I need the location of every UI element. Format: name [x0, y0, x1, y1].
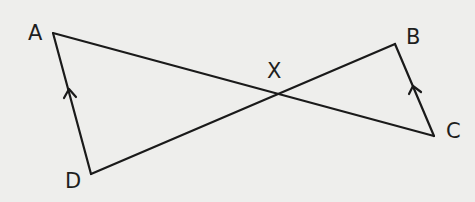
label-a: A [28, 21, 43, 45]
segment-ac [53, 33, 434, 136]
label-x: X [267, 59, 281, 83]
label-d: D [65, 169, 81, 193]
segment-bc [395, 44, 434, 136]
segment-ad [53, 33, 91, 174]
segment-db [91, 44, 395, 174]
geometry-diagram: A D X B C [0, 0, 475, 202]
label-b: B [406, 25, 420, 49]
label-c: C [446, 119, 461, 143]
